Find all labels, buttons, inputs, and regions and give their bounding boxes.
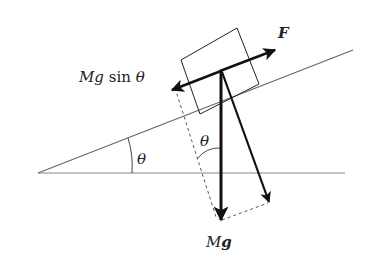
label-Mg: Mg [206,233,232,251]
label-mg-sin-theta-mg: Mg [79,68,104,86]
label-Mg-g: g [221,233,232,251]
label-Mg-M: M [206,233,221,251]
label-incline-theta: θ [137,150,146,168]
incline-angle-arc [128,138,132,173]
force-F-arrow [220,50,275,71]
incline-diagram: F Mg sin θ θ θ Mg [0,0,378,272]
label-mg-sin-theta: Mg sin θ [79,68,145,86]
diagram-svg [0,0,378,272]
dashed-line-parallel-drop [175,88,216,217]
force-mg-sin-arrow [172,71,221,90]
label-mg-sin-theta-sin: sin [109,68,131,86]
label-F: F [278,24,289,42]
label-weight-theta: θ [200,132,209,150]
dashed-line-bottom [222,203,268,220]
label-mg-sin-theta-theta: θ [136,68,145,86]
